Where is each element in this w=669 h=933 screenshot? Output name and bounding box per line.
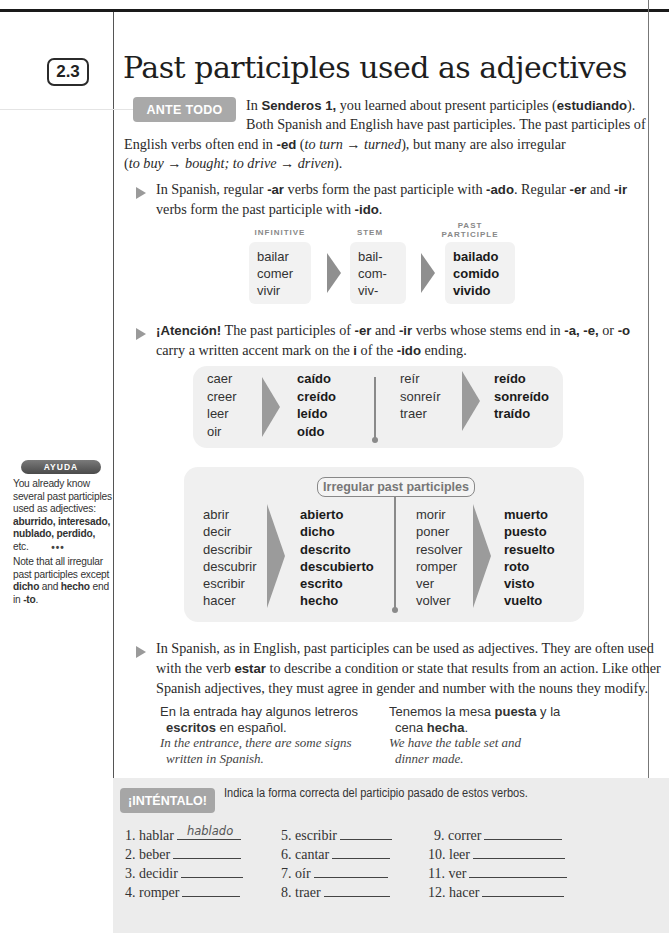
- participle: muerto: [504, 506, 555, 523]
- participle: escritos: [166, 720, 216, 735]
- participle: abierto: [300, 506, 374, 523]
- participle: descrito: [300, 541, 374, 558]
- bullet-2-line-1: ¡Atención! The past participles of -er a…: [156, 321, 630, 340]
- text: In Spanish, regular: [156, 181, 267, 197]
- infinitive-cell: bailar: [257, 248, 303, 265]
- ed-term: -ed: [277, 137, 297, 152]
- example-spanish: escritos en español.: [160, 720, 358, 736]
- text: and: [39, 581, 61, 592]
- exercise-item: 1. hablar hablado: [125, 826, 241, 844]
- term: -er: [355, 323, 372, 338]
- stem-box: bail- com- viv-: [350, 242, 406, 304]
- arrow-right-icon: [462, 371, 480, 431]
- header-past-participle: PAST PARTICIPLE: [435, 221, 505, 239]
- ayuda-badge: AYUDA: [21, 460, 101, 474]
- divider-line: [394, 497, 396, 609]
- term: -er: [570, 182, 587, 197]
- bullet-1-line-1: In Spanish, regular -ar verbs form the p…: [156, 180, 627, 199]
- participle: caído: [297, 370, 336, 388]
- estar-term: estar: [234, 661, 266, 676]
- text: and: [586, 181, 614, 197]
- answer-blank[interactable]: [324, 883, 390, 897]
- text: In: [246, 97, 261, 113]
- infinitive: descubrir: [203, 558, 256, 575]
- accent-left-infinitives: caer creer leer oir: [207, 370, 237, 440]
- senderos-term: Senderos 1,: [261, 98, 336, 113]
- item-number: 3.: [125, 866, 136, 882]
- text: ).: [627, 97, 635, 113]
- participle-cell: bailado: [453, 248, 507, 265]
- item-number: 12.: [428, 885, 446, 901]
- participle-cell: comido: [453, 265, 507, 282]
- bullet-1-line-2: verbs form the past participle with -ido…: [156, 200, 382, 219]
- item-number: 2.: [125, 847, 136, 863]
- answer-blank[interactable]: [340, 826, 392, 840]
- infinitive: leer: [207, 405, 237, 423]
- example-1: En la entrada hay algunos letreros escri…: [160, 704, 358, 766]
- term: hecho: [61, 581, 90, 592]
- text: English verbs often end in: [124, 136, 277, 152]
- header-past-line-2: PARTICIPLE: [435, 230, 505, 239]
- answer-blank[interactable]: [484, 826, 562, 840]
- term: -a, -e,: [564, 323, 598, 338]
- text: en español.: [216, 720, 287, 735]
- term: -to: [23, 594, 35, 605]
- item-verb: escribir: [295, 828, 337, 844]
- term: -ir: [399, 323, 412, 338]
- answer-blank[interactable]: [332, 845, 390, 859]
- answer-blank[interactable]: [173, 845, 241, 859]
- answer-blank[interactable]: [182, 883, 240, 897]
- text: .: [464, 720, 468, 735]
- answer-blank[interactable]: [181, 864, 243, 878]
- item-number: 5.: [281, 828, 292, 844]
- answer-blank[interactable]: hablado: [177, 826, 241, 840]
- participle: escrito: [300, 575, 374, 592]
- text: The past participles of: [221, 322, 354, 338]
- text: Note that all irregular past participles…: [13, 556, 109, 580]
- ayuda-paragraph-2: Note that all irregular past participles…: [13, 556, 113, 606]
- participle: sonreído: [494, 388, 549, 406]
- exercise-item: 5. escribir: [281, 826, 392, 844]
- answer-text: hablado: [187, 824, 233, 838]
- answer-blank[interactable]: [482, 883, 564, 897]
- page-title: Past participles used as adjectives: [123, 50, 627, 85]
- term: -ido: [355, 202, 379, 217]
- infinitive: hacer: [203, 592, 256, 609]
- answer-blank[interactable]: [469, 864, 567, 878]
- item-verb: hablar: [139, 828, 174, 844]
- answer-blank[interactable]: [314, 864, 388, 878]
- text: .: [36, 594, 39, 605]
- participle: puesta: [495, 704, 537, 719]
- intro-line-3: English verbs often end in -ed (to turn …: [124, 135, 566, 154]
- bullet-3-line-2: with the verb estar to describe a condit…: [156, 659, 661, 678]
- exercise-item: 12. hacer: [428, 883, 564, 901]
- item-number: 7.: [281, 866, 292, 882]
- intro-line-1: In Senderos 1, you learned about present…: [246, 96, 635, 115]
- stem-cell: com-: [358, 265, 398, 282]
- participle: dicho: [300, 523, 374, 540]
- participle: puesto: [504, 523, 555, 540]
- header-infinitive: INFINITIVE: [250, 228, 310, 237]
- term: dicho: [13, 581, 39, 592]
- exercise-item: 9. correr: [434, 826, 562, 844]
- example-spanish: cena hecha.: [389, 720, 560, 736]
- example-2: Tenemos la mesa puesta y la cena hecha. …: [389, 704, 560, 766]
- arrow-right-icon: [473, 504, 491, 608]
- participle: vuelto: [504, 592, 555, 609]
- exercise-item: 6. cantar: [281, 845, 390, 863]
- item-number: 1.: [125, 828, 136, 844]
- term: -ido: [397, 343, 421, 358]
- answer-blank[interactable]: [473, 845, 565, 859]
- term: -o: [618, 323, 630, 338]
- infinitive: ver: [416, 575, 462, 592]
- text: and: [371, 322, 399, 338]
- participle: hecha: [427, 720, 465, 735]
- term: -ar: [267, 182, 284, 197]
- example-english: dinner made.: [389, 751, 560, 767]
- accent-left-participles: caído creído leído oído: [297, 370, 336, 440]
- header-stem: STEM: [345, 228, 395, 237]
- accent-right-participles: reído sonreído traído: [494, 370, 549, 423]
- participle: traído: [494, 405, 549, 423]
- arrow-right-icon: [327, 253, 341, 293]
- arrow-right-icon: [421, 253, 435, 293]
